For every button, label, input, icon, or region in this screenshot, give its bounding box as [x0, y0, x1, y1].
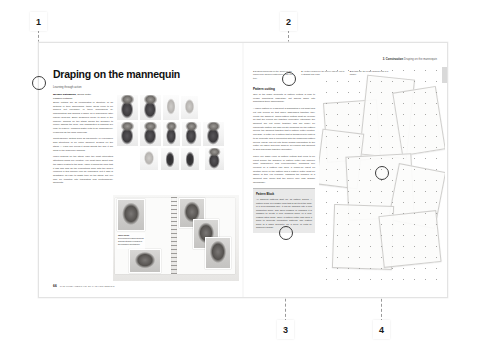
mannequin-photo: [140, 148, 158, 170]
mannequin-photo-grid: [117, 95, 229, 173]
spread-gutter: [242, 43, 244, 297]
mannequin-photo: [181, 96, 198, 119]
mannequin-photo: [140, 122, 161, 146]
folio-text: THE FUNDAMENTALS OF FASHION DESIGN: [60, 285, 115, 288]
sketchbook-photo-item: [205, 237, 231, 269]
byline-role: Senior Tutor,: [77, 93, 91, 96]
callout-marker-1[interactable]: 1: [30, 12, 47, 31]
mannequin-photo: [205, 148, 224, 170]
running-head-title: Draping on the mannequin: [404, 58, 437, 61]
sketchbook-photo: Work book Development pages showing drap…: [113, 195, 239, 281]
callout-marker-label: 4: [379, 325, 384, 335]
byline-org: Fashion Knitwear: [53, 97, 72, 100]
body-paragraph: Contemporary details such as asymmetry o…: [53, 137, 113, 152]
left-body-column: Some clothes are so complicated in struc…: [53, 101, 113, 188]
mannequin-photo: [182, 122, 201, 146]
running-head: 3. Construction Draping on the mannequin: [383, 58, 437, 61]
mannequin-photo: [203, 122, 224, 146]
sketchbook-note-body: Development pages showing draping studie…: [118, 237, 144, 245]
mannequin-photo: [163, 95, 179, 120]
callout-target-3: [279, 226, 293, 240]
mannequin-photo: [163, 122, 180, 146]
body-paragraph: There are basic rules of pattern cutting…: [253, 155, 315, 185]
mannequin-photo: [117, 122, 138, 146]
callout-target-2: [282, 72, 296, 86]
mannequin-photo: [140, 95, 161, 120]
body-paragraph: A paper pattern or a garment is dismantl…: [253, 107, 315, 152]
screenshot-canvas: Draping on the mannequin Learning throug…: [0, 0, 484, 352]
byline: Melanie Nathanson, Senior Tutor, Fashion…: [53, 93, 113, 101]
page-tab: [442, 67, 447, 83]
mannequin-photo: [161, 148, 179, 170]
body-paragraph: When draping on the stand, offer the mos…: [53, 155, 113, 185]
callout-marker-3[interactable]: 3: [277, 320, 294, 339]
sketchbook-photo-item: [117, 199, 145, 231]
folio-number: 66: [53, 284, 57, 288]
spiral-binding-icon: [171, 197, 177, 277]
sketchbook-note: Work book Development pages showing drap…: [117, 233, 145, 249]
page-title: Draping on the mannequin: [53, 69, 203, 80]
mannequin-photo: [181, 148, 199, 170]
folio: 66 THE FUNDAMENTALS OF FASHION DESIGN: [53, 284, 173, 288]
subhead: Pattern cutting: [253, 87, 315, 91]
callout-marker-4[interactable]: 4: [373, 320, 390, 339]
body-paragraph: Some clothes are so complicated in struc…: [53, 101, 113, 134]
sketchbook-photo-item: [129, 249, 161, 273]
standfirst: Learning through action: [53, 86, 113, 89]
callout-target-1: [32, 76, 46, 90]
left-page: Draping on the mannequin Learning throug…: [39, 43, 243, 297]
mannequin-photo: [117, 95, 138, 120]
callout-target-4: [375, 166, 389, 180]
callout-marker-label: 1: [36, 17, 41, 27]
callout-marker-label: 2: [286, 17, 291, 27]
right-body-column: One of the basic concepts of pattern cut…: [253, 93, 315, 188]
callout-marker-2[interactable]: 2: [280, 12, 297, 31]
body-paragraph: One of the basic concepts of pattern cut…: [253, 93, 315, 104]
sidebar-panel-title: Pattern Block: [256, 192, 312, 196]
right-page: 3. Construction Draping on the mannequin…: [243, 43, 447, 297]
byline-name: Melanie Nathanson,: [53, 93, 76, 96]
callout-marker-label: 3: [283, 325, 288, 335]
running-head-section: 3. Construction: [383, 58, 404, 61]
